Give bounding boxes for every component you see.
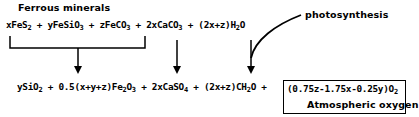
arrow-head-ferrous <box>74 66 82 74</box>
arrow-head-caco3 <box>173 66 181 74</box>
arrow-head-h2o <box>247 66 255 74</box>
ferrous-bracket <box>10 36 145 67</box>
photosynthesis-curve <box>251 15 301 58</box>
